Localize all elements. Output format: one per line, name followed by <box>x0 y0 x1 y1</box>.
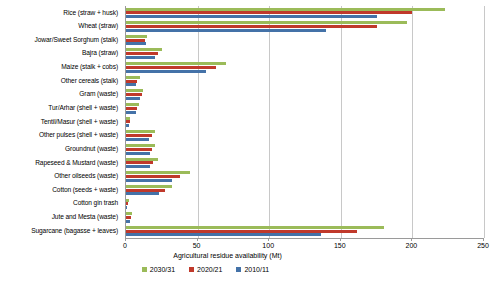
bar-2030-31 <box>126 144 155 147</box>
bar-2010-11 <box>126 124 129 127</box>
legend-label: 2030/31 <box>150 266 175 273</box>
x-tick <box>197 238 198 241</box>
bar-2030-31 <box>126 35 147 38</box>
gridline <box>484 6 485 238</box>
bar-2010-11 <box>126 192 159 195</box>
legend-swatch-icon <box>236 267 241 272</box>
bar-2020-21 <box>126 52 158 55</box>
bar-2010-11 <box>126 70 206 73</box>
bar-2030-31 <box>126 8 445 11</box>
x-tick-label: 200 <box>406 242 418 249</box>
bar-2030-31 <box>126 62 226 65</box>
x-tick <box>340 238 341 241</box>
bar-2020-21 <box>126 161 153 164</box>
bar-2020-21 <box>126 11 412 14</box>
legend-label: 2010/11 <box>244 266 269 273</box>
bar-2010-11 <box>126 138 149 141</box>
bar-group <box>126 142 483 156</box>
bar-2030-31 <box>126 158 158 161</box>
legend-item[interactable]: 2030/31 <box>142 266 175 273</box>
category-label: Jute and Mesta (waste) <box>0 211 122 225</box>
category-label: Jowar/Sweet Sorghum (stalk) <box>0 33 122 47</box>
x-tick-label: 0 <box>123 242 127 249</box>
bar-group <box>126 88 483 102</box>
bar-group <box>126 6 483 20</box>
bar-2030-31 <box>126 185 172 188</box>
legend-swatch-icon <box>189 267 194 272</box>
bar-group <box>126 211 483 225</box>
x-tick-label: 50 <box>193 242 201 249</box>
bar-2010-11 <box>126 111 136 114</box>
agricultural-residue-bar-chart: Rice (straw + husk)Wheat (straw)Jowar/Sw… <box>0 0 503 282</box>
category-label: Tentil/Masur (shell + waste) <box>0 115 122 129</box>
category-label: Other pulses (shell + waste) <box>0 129 122 143</box>
x-axis-title: Agricultural residue availability (Mt) <box>0 252 503 259</box>
bar-2020-21 <box>126 230 357 233</box>
bar-2020-21 <box>126 25 377 28</box>
bar-2030-31 <box>126 103 139 106</box>
category-label: Maize (stalk + cobs) <box>0 61 122 75</box>
category-label: Wheat (straw) <box>0 20 122 34</box>
bar-2020-21 <box>126 120 130 123</box>
category-axis-labels: Rice (straw + husk)Wheat (straw)Jowar/Sw… <box>0 6 122 238</box>
bar-2020-21 <box>126 107 137 110</box>
x-tick-label: 150 <box>334 242 346 249</box>
bar-2010-11 <box>126 233 321 236</box>
category-label: Bajra (straw) <box>0 47 122 61</box>
bar-group <box>126 61 483 75</box>
legend-label: 2020/21 <box>197 266 222 273</box>
bar-group <box>126 224 483 238</box>
bar-2010-11 <box>126 165 150 168</box>
legend-item[interactable]: 2010/11 <box>236 266 269 273</box>
bar-group <box>126 170 483 184</box>
x-tick <box>411 238 412 241</box>
bar-2010-11 <box>126 206 127 209</box>
bar-2010-11 <box>126 15 377 18</box>
x-tick-label: 100 <box>262 242 274 249</box>
bar-group <box>126 20 483 34</box>
bar-group <box>126 183 483 197</box>
category-label: Rice (straw + husk) <box>0 6 122 20</box>
bar-2020-21 <box>126 93 142 96</box>
category-label: Tur/Arhar (shell + waste) <box>0 101 122 115</box>
bar-2010-11 <box>126 97 140 100</box>
bar-2030-31 <box>126 226 384 229</box>
bar-group <box>126 115 483 129</box>
category-label: Rapeseed & Mustard (waste) <box>0 156 122 170</box>
category-label: Groundnut (waste) <box>0 142 122 156</box>
legend-item[interactable]: 2020/21 <box>189 266 222 273</box>
category-label: Other oilseeds (waste) <box>0 170 122 184</box>
category-label: Cotton gin trash <box>0 197 122 211</box>
bar-2010-11 <box>126 152 150 155</box>
x-tick <box>125 238 126 241</box>
plot-area <box>125 6 483 238</box>
bar-2020-21 <box>126 148 152 151</box>
bar-2010-11 <box>126 179 172 182</box>
bar-2030-31 <box>126 199 129 202</box>
x-axis-title-text: Agricultural residue availability (Mt) <box>173 252 282 259</box>
bar-2020-21 <box>126 202 128 205</box>
bar-2030-31 <box>126 171 190 174</box>
bar-group <box>126 47 483 61</box>
bar-2030-31 <box>126 212 132 215</box>
bar-2030-31 <box>126 48 162 51</box>
x-tick <box>483 238 484 241</box>
bar-group <box>126 74 483 88</box>
bar-group <box>126 156 483 170</box>
legend-swatch-icon <box>142 267 147 272</box>
bar-2010-11 <box>126 220 130 223</box>
bar-2030-31 <box>126 21 407 24</box>
bar-2020-21 <box>126 134 152 137</box>
bar-rows <box>126 6 483 238</box>
bar-2030-31 <box>126 76 140 79</box>
bar-2020-21 <box>126 66 216 69</box>
category-label: Gram (waste) <box>0 88 122 102</box>
bar-group <box>126 197 483 211</box>
plot-wrapper: Rice (straw + husk)Wheat (straw)Jowar/Sw… <box>0 0 503 240</box>
bar-2020-21 <box>126 175 180 178</box>
bar-2020-21 <box>126 216 131 219</box>
bar-2030-31 <box>126 89 143 92</box>
bar-group <box>126 33 483 47</box>
bar-2030-31 <box>126 130 155 133</box>
category-label: Other cereals (stalk) <box>0 74 122 88</box>
